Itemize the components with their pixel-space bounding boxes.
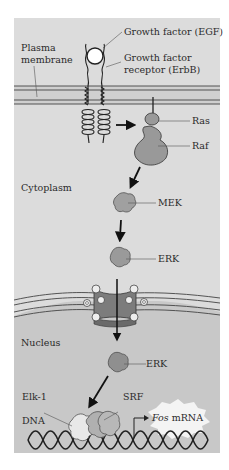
label-raf: Raf	[192, 140, 210, 151]
label-erk-nucleus: ERK	[146, 358, 168, 369]
label-cytoplasm: Cytoplasm	[21, 182, 72, 193]
label-mek: MEK	[158, 197, 183, 208]
label-dna: DNA	[22, 415, 45, 426]
ras-protein	[145, 113, 159, 125]
erk-nucleus-protein	[108, 352, 128, 371]
pathway-diagram: Growth factor (EGF) Growth factor recept…	[0, 0, 229, 470]
label-fos-mrna: Fos mRNA	[151, 412, 203, 423]
label-receptor-line2: receptor (ErbB)	[124, 64, 200, 75]
arrow-mek-to-erk	[120, 220, 121, 237]
label-fos-gene: Fos	[151, 412, 169, 423]
label-plasma-line2: membrane	[21, 54, 73, 65]
label-ras: Ras	[192, 115, 210, 126]
erk-pathway-figure: Growth factor (EGF) Growth factor recept…	[0, 0, 229, 470]
label-nucleus: Nucleus	[21, 337, 61, 348]
label-plasma-line1: Plasma	[21, 42, 56, 53]
label-erk-cytoplasm: ERK	[158, 253, 180, 264]
label-growth-factor: Growth factor (EGF)	[124, 26, 223, 37]
egf-ligand	[87, 48, 103, 64]
erk-cytoplasm-protein	[110, 247, 130, 266]
label-receptor-line1: Growth factor	[124, 52, 192, 63]
plasma-membrane	[14, 86, 220, 104]
label-srf: SRF	[123, 391, 144, 402]
label-mrna: mRNA	[169, 412, 203, 423]
label-elk1: Elk-1	[22, 391, 47, 402]
